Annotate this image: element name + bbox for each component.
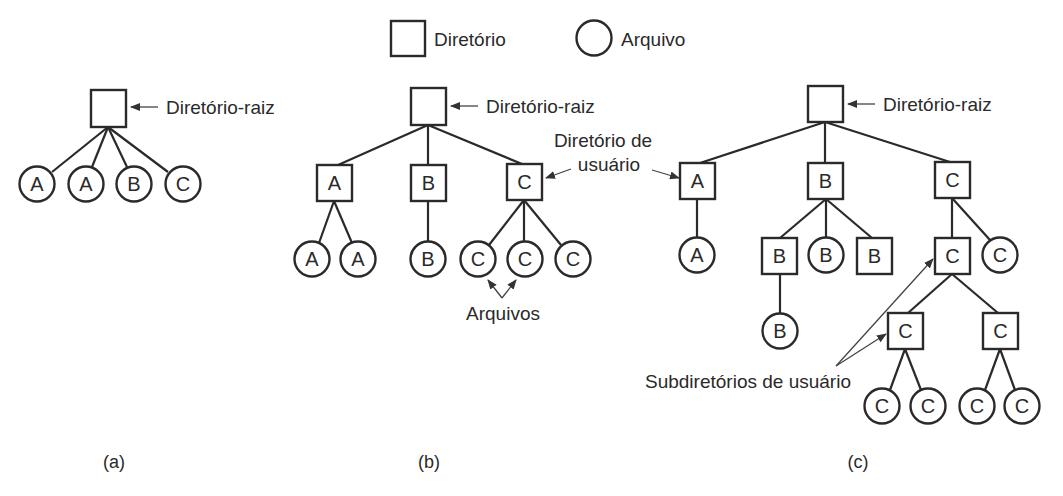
root-directory — [91, 90, 126, 127]
svg-text:B: B — [819, 244, 832, 266]
svg-text:B: B — [127, 173, 140, 195]
root-label: Diretório-raiz — [166, 97, 275, 118]
root-directory — [411, 88, 446, 125]
svg-text:C: C — [518, 248, 532, 270]
svg-text:C: C — [993, 244, 1007, 266]
svg-text:C: C — [993, 320, 1007, 342]
arrow-icon — [488, 280, 502, 298]
files-annotation: Arquivos — [466, 303, 540, 324]
svg-text:A: A — [79, 173, 93, 195]
user-directory-annotation-line2: usuário — [578, 154, 640, 175]
svg-text:C: C — [970, 395, 984, 417]
svg-text:C: C — [1015, 395, 1029, 417]
svg-text:B: B — [773, 245, 786, 267]
svg-text:C: C — [176, 173, 190, 195]
root-directory — [808, 86, 843, 122]
arrow-icon — [652, 170, 679, 178]
root-label: Diretório-raiz — [883, 94, 992, 115]
svg-text:A: A — [305, 248, 319, 270]
svg-text:B: B — [773, 320, 786, 342]
caption-b: (b) — [418, 452, 440, 472]
svg-text:C: C — [875, 395, 889, 417]
svg-text:C: C — [517, 171, 531, 193]
svg-text:B: B — [819, 170, 832, 192]
arrow-icon — [502, 280, 516, 298]
svg-text:C: C — [921, 395, 935, 417]
svg-text:A: A — [351, 248, 365, 270]
svg-text:C: C — [945, 245, 959, 267]
svg-text:A: A — [328, 172, 342, 194]
svg-text:B: B — [421, 248, 434, 270]
arrow-icon — [546, 169, 571, 178]
svg-text:A: A — [30, 173, 44, 195]
legend-file-circle-icon — [577, 21, 612, 56]
diagram-c-hierarchical: Diretório-raiz A B C A B B B B C C — [645, 86, 1040, 472]
caption-a: (a) — [103, 452, 125, 472]
file-system-diagrams: Diretório Arquivo Diretório-raiz A A B C… — [0, 0, 1063, 496]
legend-file-label: Arquivo — [621, 29, 685, 50]
subdirectories-annotation: Subdiretórios de usuário — [645, 371, 851, 392]
legend-directory-square-icon — [391, 21, 425, 56]
root-label: Diretório-raiz — [486, 96, 595, 117]
svg-text:C: C — [566, 248, 580, 270]
svg-text:B: B — [422, 172, 435, 194]
svg-text:A: A — [690, 244, 704, 266]
legend-directory-label: Diretório — [434, 29, 506, 50]
diagram-a-single-level: Diretório-raiz A A B C (a) — [20, 90, 275, 472]
legend: Diretório Arquivo — [391, 21, 685, 57]
diagram-b-two-level: Diretório-raiz A B C A A B C C C Diretór… — [295, 88, 680, 472]
svg-text:C: C — [471, 248, 485, 270]
caption-c: (c) — [848, 452, 869, 472]
svg-text:A: A — [691, 170, 705, 192]
svg-text:C: C — [945, 169, 959, 191]
svg-text:B: B — [868, 245, 881, 267]
user-directory-annotation: Diretório de — [554, 130, 652, 151]
svg-text:C: C — [898, 320, 912, 342]
